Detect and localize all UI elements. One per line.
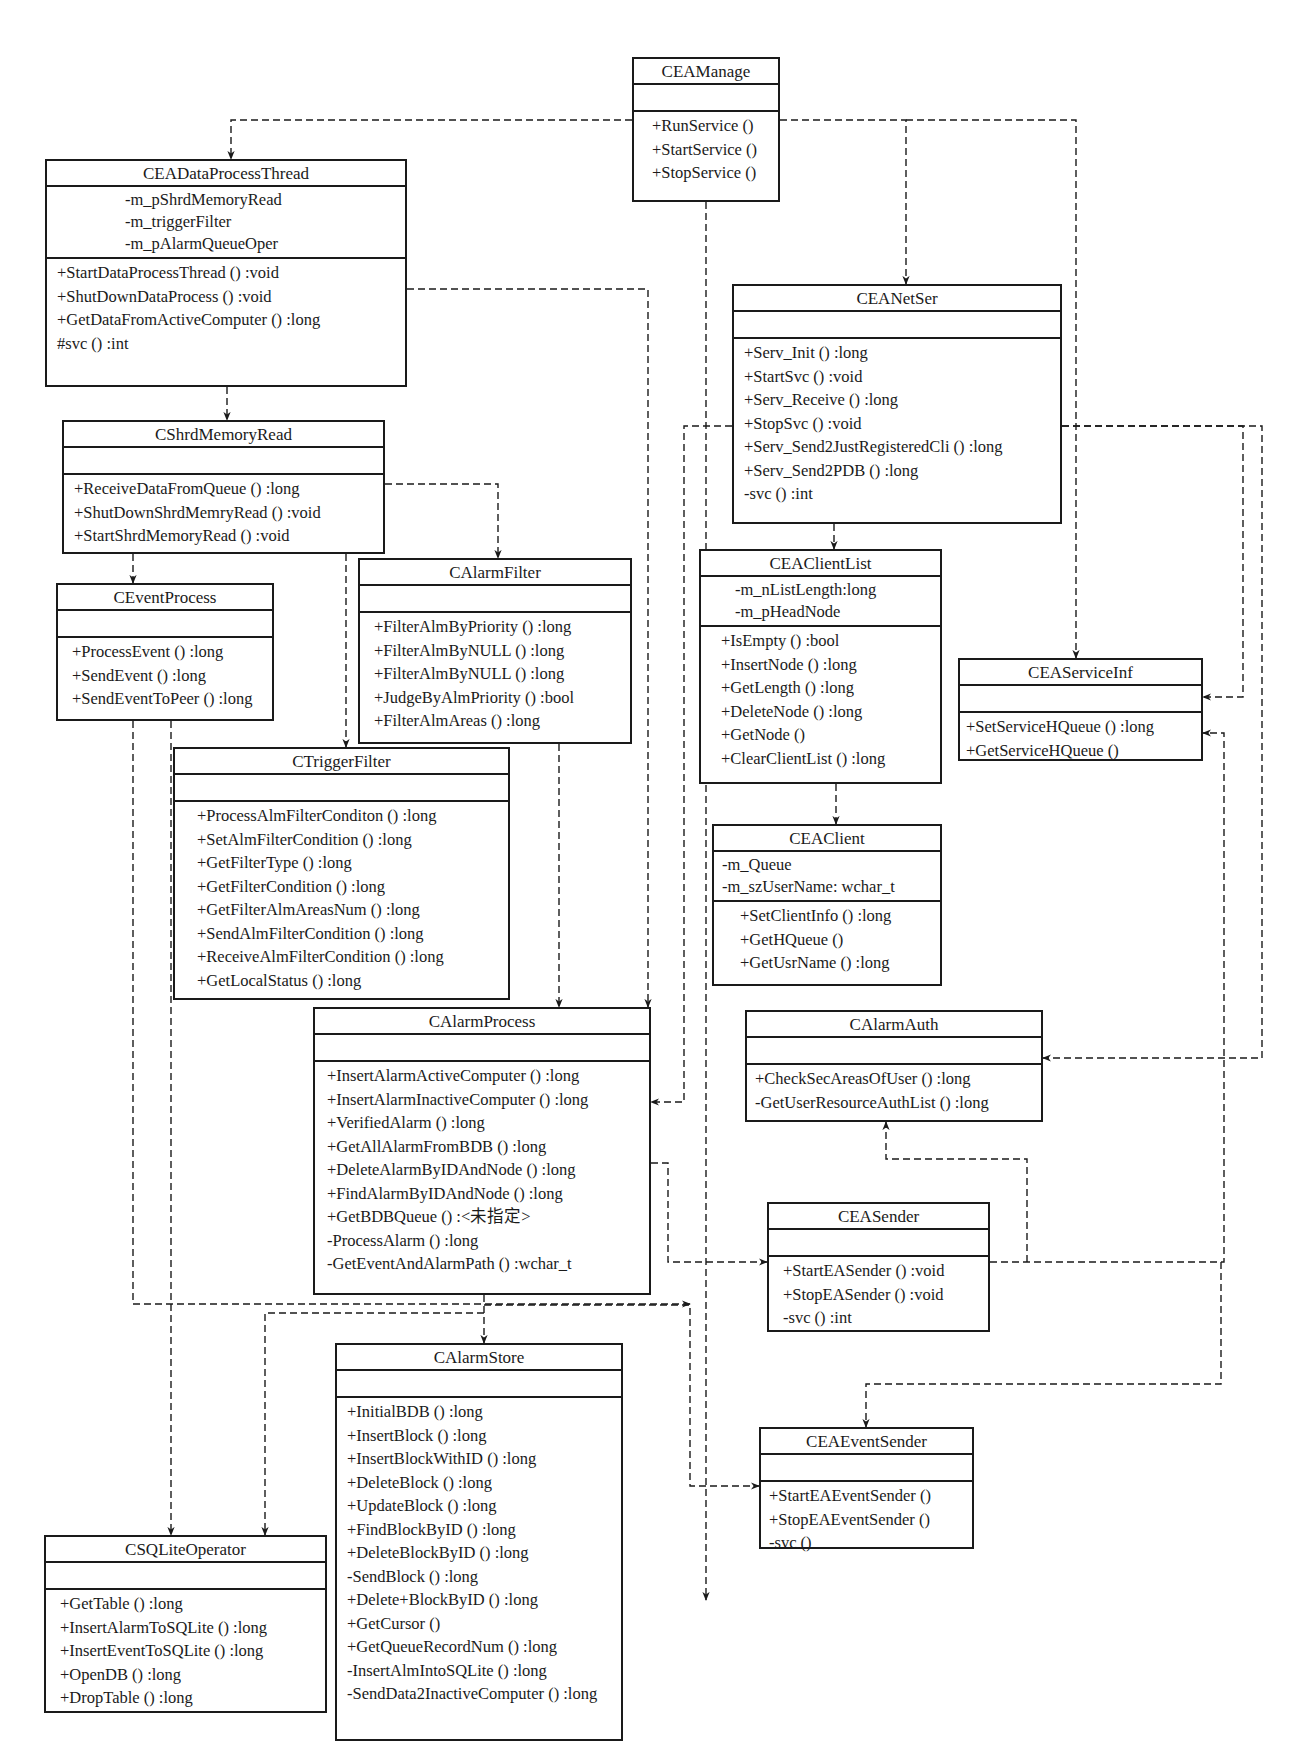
class-operation: +SetClientInfo () :long bbox=[740, 904, 940, 928]
class-operations: +StartEASender () :void+StopEASender () … bbox=[769, 1257, 988, 1334]
class-operation: +GetLocalStatus () :long bbox=[197, 969, 508, 993]
class-operation: +FindAlarmByIDAndNode () :long bbox=[327, 1182, 649, 1206]
uml-class-diagram: CEAManage +RunService ()+StartService ()… bbox=[0, 0, 1293, 1749]
class-operation: +Serv_Receive () :long bbox=[744, 388, 1060, 412]
class-attributes bbox=[761, 1455, 972, 1482]
class-operation: +JudgeByAlmPriority () :bool bbox=[374, 686, 630, 710]
class-operation: +GetTable () :long bbox=[60, 1592, 325, 1616]
class-name: CTriggerFilter bbox=[175, 749, 508, 775]
class-attributes bbox=[337, 1371, 621, 1398]
class-operation: +OpenDB () :long bbox=[60, 1663, 325, 1687]
class-ctriggerfilter: CTriggerFilter +ProcessAlmFilterConditon… bbox=[173, 747, 510, 1000]
dependency-arrow bbox=[990, 733, 1224, 1262]
class-operation: +UpdateBlock () :long bbox=[347, 1494, 621, 1518]
class-name: CEAManage bbox=[634, 59, 778, 85]
class-attributes bbox=[769, 1230, 988, 1257]
class-operation: +GetCursor () bbox=[347, 1612, 621, 1636]
class-attributes bbox=[46, 1563, 325, 1590]
class-name: CAlarmAuth bbox=[747, 1012, 1041, 1038]
dependency-arrow bbox=[385, 484, 498, 558]
class-operation: +StartDataProcessThread () :void bbox=[57, 261, 405, 285]
class-operation: +SendEventToPeer () :long bbox=[72, 687, 272, 711]
class-attribute: -m_pShrdMemoryRead bbox=[125, 189, 405, 211]
class-name: CEADataProcessThread bbox=[47, 161, 405, 187]
class-ceasender: CEASender +StartEASender () :void+StopEA… bbox=[767, 1202, 990, 1332]
dependency-arrow bbox=[1062, 426, 1243, 697]
class-attribute: -m_triggerFilter bbox=[125, 211, 405, 233]
class-operation: +FilterAlmAreas () :long bbox=[374, 709, 630, 733]
class-operation: +DropTable () :long bbox=[60, 1686, 325, 1710]
class-name: CAlarmFilter bbox=[360, 560, 630, 586]
class-operation: +FilterAlmByNULL () :long bbox=[374, 639, 630, 663]
class-operation: +GetAllAlarmFromBDB () :long bbox=[327, 1135, 649, 1159]
class-ceanetser: CEANetSer +Serv_Init () :long+StartSvc (… bbox=[732, 284, 1062, 524]
class-operation: +ShutDownDataProcess () :void bbox=[57, 285, 405, 309]
class-operation: +RunService () bbox=[652, 114, 778, 138]
class-calarmauth: CAlarmAuth +CheckSecAreasOfUser () :long… bbox=[745, 1010, 1043, 1122]
class-operations: +ProcessAlmFilterConditon () :long+SetAl… bbox=[175, 802, 508, 996]
class-attributes bbox=[64, 448, 383, 475]
class-operation: -svc () bbox=[769, 1531, 972, 1555]
class-operation: +InsertBlockWithID () :long bbox=[347, 1447, 621, 1471]
class-calarmstore: CAlarmStore +InitialBDB () :long+InsertB… bbox=[335, 1343, 623, 1741]
class-operation: +InsertBlock () :long bbox=[347, 1424, 621, 1448]
class-attribute: -m_szUserName: wchar_t bbox=[722, 876, 940, 898]
class-operation: +GetBDBQueue () :<未指定> bbox=[327, 1205, 649, 1229]
class-operation: -InsertAlmIntoSQLite () :long bbox=[347, 1659, 621, 1683]
class-operation: +GetLength () :long bbox=[721, 676, 940, 700]
class-operation: +StopEAEventSender () bbox=[769, 1508, 972, 1532]
class-operation: +InsertAlarmInactiveComputer () :long bbox=[327, 1088, 649, 1112]
class-operation: +Serv_Send2JustRegisteredCli () :long bbox=[744, 435, 1060, 459]
class-ceaeventsender: CEAEventSender +StartEAEventSender ()+St… bbox=[759, 1427, 974, 1549]
class-operation: +SetServiceHQueue () :long bbox=[966, 715, 1201, 739]
class-operations: +ProcessEvent () :long+SendEvent () :lon… bbox=[58, 638, 272, 715]
class-attributes bbox=[315, 1035, 649, 1062]
class-operation: +GetUsrName () :long bbox=[740, 951, 940, 975]
class-operation: +InitialBDB () :long bbox=[347, 1400, 621, 1424]
class-name: CShrdMemoryRead bbox=[64, 422, 383, 448]
class-operation: +InsertNode () :long bbox=[721, 653, 940, 677]
class-operations: +IsEmpty () :bool+InsertNode () :long+Ge… bbox=[701, 627, 940, 774]
class-operation: +ReceiveDataFromQueue () :long bbox=[74, 477, 383, 501]
class-operation: +FindBlockByID () :long bbox=[347, 1518, 621, 1542]
class-operation: +GetQueueRecordNum () :long bbox=[347, 1635, 621, 1659]
class-operations: +SetClientInfo () :long+GetHQueue ()+Get… bbox=[714, 902, 940, 979]
class-operation: +FilterAlmByPriority () :long bbox=[374, 615, 630, 639]
class-operation: +StopSvc () :void bbox=[744, 412, 1060, 436]
class-attributes bbox=[58, 611, 272, 638]
class-operation: +StopService () bbox=[652, 161, 778, 185]
class-ceamanage: CEAManage +RunService ()+StartService ()… bbox=[632, 57, 780, 202]
class-name: CEAClientList bbox=[701, 551, 940, 577]
class-operation: +DeleteAlarmByIDAndNode () :long bbox=[327, 1158, 649, 1182]
class-ceaclient: CEAClient -m_Queue-m_szUserName: wchar_t… bbox=[712, 824, 942, 986]
class-attributes: -m_Queue-m_szUserName: wchar_t bbox=[714, 852, 940, 902]
class-operations: +FilterAlmByPriority () :long+FilterAlmB… bbox=[360, 613, 630, 737]
class-attributes bbox=[734, 312, 1060, 339]
class-operation: +StartShrdMemoryRead () :void bbox=[74, 524, 383, 548]
class-operation: +InsertEventToSQLite () :long bbox=[60, 1639, 325, 1663]
class-operation: +VerifiedAlarm () :long bbox=[327, 1111, 649, 1135]
dependency-arrow bbox=[231, 120, 632, 159]
class-attributes bbox=[360, 586, 630, 613]
class-operation: +DeleteBlockByID () :long bbox=[347, 1541, 621, 1565]
class-name: CEAServiceInf bbox=[960, 660, 1201, 686]
class-operation: +StartService () bbox=[652, 138, 778, 162]
class-operation: +ClearClientList () :long bbox=[721, 747, 940, 771]
class-name: CEventProcess bbox=[58, 585, 272, 611]
class-operation: +Serv_Send2PDB () :long bbox=[744, 459, 1060, 483]
class-name: CEASender bbox=[769, 1204, 988, 1230]
class-operations: +InitialBDB () :long+InsertBlock () :lon… bbox=[337, 1398, 621, 1710]
class-operation: +ShutDownShrdMemryRead () :void bbox=[74, 501, 383, 525]
dependency-arrow bbox=[780, 120, 906, 284]
class-operation: +GetFilterAlmAreasNum () :long bbox=[197, 898, 508, 922]
class-operation: -SendData2InactiveComputer () :long bbox=[347, 1682, 621, 1706]
class-operation: -SendBlock () :long bbox=[347, 1565, 621, 1589]
class-operation: +GetHQueue () bbox=[740, 928, 940, 952]
class-operation: +SetAlmFilterCondition () :long bbox=[197, 828, 508, 852]
class-operation: +GetDataFromActiveComputer () :long bbox=[57, 308, 405, 332]
class-operation: +Delete+BlockByID () :long bbox=[347, 1588, 621, 1612]
class-operation: +ProcessEvent () :long bbox=[72, 640, 272, 664]
class-operation: +GetNode () bbox=[721, 723, 940, 747]
class-operations: +RunService ()+StartService ()+StopServi… bbox=[634, 112, 778, 189]
class-operations: +StartDataProcessThread () :void+ShutDow… bbox=[47, 259, 405, 359]
